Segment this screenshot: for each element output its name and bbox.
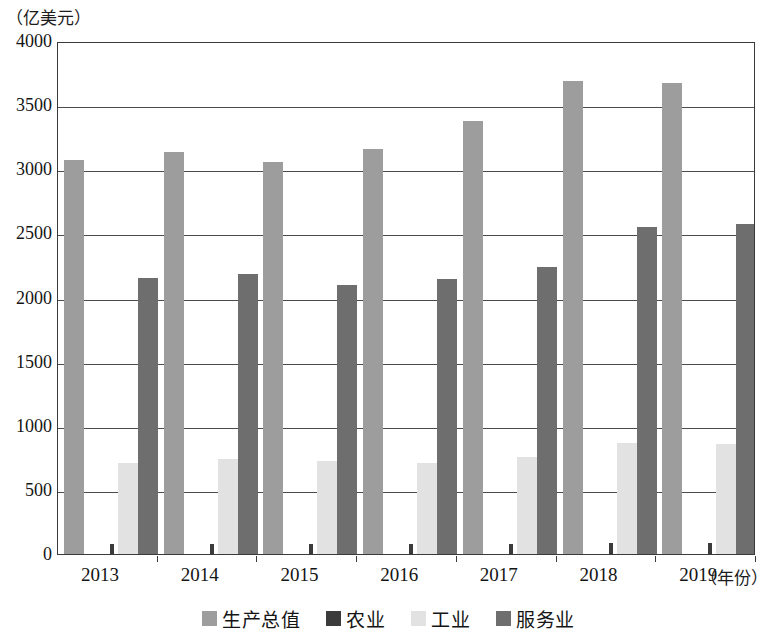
bar-2019-农业 [708, 543, 712, 554]
bar-2016-生产总值 [363, 149, 383, 554]
bar-group [557, 43, 657, 554]
bar-2016-服务业 [437, 279, 457, 554]
bar-2016-工业 [417, 463, 437, 554]
bar-2013-农业 [110, 544, 114, 554]
x-axis-tick-mark [356, 556, 357, 562]
bar-2013-工业 [118, 463, 138, 554]
x-axis-tick-label: 2017 [480, 564, 518, 586]
x-axis-tick-mark [157, 556, 158, 562]
bar-2018-生产总值 [563, 81, 583, 554]
legend-swatch-icon [202, 611, 217, 626]
bar-2018-农业 [609, 543, 613, 554]
plot-area [57, 42, 755, 555]
x-axis-tick-labels: 2013201420152016201720182019 [0, 556, 777, 586]
x-axis-tick-label: 2014 [181, 564, 219, 586]
legend-item-农业[interactable]: 农业 [326, 605, 385, 632]
x-axis-tick-label: 2016 [380, 564, 418, 586]
bar-2017-生产总值 [463, 121, 483, 554]
legend-swatch-icon [496, 611, 511, 626]
bar-group [357, 43, 457, 554]
y-axis-unit-label: （亿美元） [6, 4, 91, 29]
x-axis-tick-mark [456, 556, 457, 562]
x-axis-tick-mark [256, 556, 257, 562]
bar-2014-工业 [218, 459, 238, 554]
bar-group [158, 43, 258, 554]
legend-item-工业[interactable]: 工业 [411, 605, 470, 632]
legend-item-服务业[interactable]: 服务业 [496, 605, 575, 632]
legend-label: 农业 [346, 605, 385, 632]
legend-label: 工业 [431, 605, 470, 632]
legend-swatch-icon [326, 611, 341, 626]
x-axis-tick-label: 2013 [81, 564, 119, 586]
bar-2019-工业 [716, 444, 736, 554]
bar-2018-工业 [617, 443, 637, 554]
bar-2015-服务业 [337, 285, 357, 554]
x-axis-tick-mark [755, 556, 756, 562]
bar-2014-服务业 [238, 274, 258, 554]
bar-group [457, 43, 557, 554]
x-axis-tick-label: 2015 [280, 564, 318, 586]
bar-2019-生产总值 [662, 83, 682, 554]
bar-2017-服务业 [537, 267, 557, 554]
bar-group [257, 43, 357, 554]
bar-2015-工业 [317, 461, 337, 554]
bar-2013-生产总值 [64, 160, 84, 554]
bar-chart: （亿美元） 05001000150020002500300035004000 2… [0, 0, 777, 632]
legend-label: 生产总值 [222, 605, 300, 632]
bar-2018-服务业 [637, 227, 657, 554]
legend-label: 服务业 [516, 605, 575, 632]
x-axis-tick-mark [556, 556, 557, 562]
bar-2016-农业 [409, 544, 413, 554]
bar-2014-农业 [210, 544, 214, 554]
bar-group [58, 43, 158, 554]
legend-swatch-icon [411, 611, 426, 626]
legend-item-生产总值[interactable]: 生产总值 [202, 605, 300, 632]
chart-legend: 生产总值农业工业服务业 [0, 604, 777, 632]
bar-2015-生产总值 [263, 162, 283, 554]
bar-2015-农业 [309, 544, 313, 554]
bar-group [656, 43, 755, 554]
x-axis-tick-label: 2018 [580, 564, 618, 586]
bar-2014-生产总值 [164, 152, 184, 554]
bar-2017-工业 [517, 457, 537, 554]
bar-2013-服务业 [138, 278, 158, 554]
x-axis-unit-label: （年份） [700, 564, 768, 589]
bar-2017-农业 [509, 544, 513, 554]
bar-series-layer [58, 43, 754, 554]
x-axis-tick-mark [655, 556, 656, 562]
bar-2019-服务业 [736, 224, 755, 554]
